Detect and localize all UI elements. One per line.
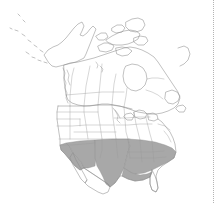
north-america-map: [0, 0, 220, 203]
panel-divider: [213, 0, 214, 203]
distribution-map-figure: North America species distribution map: [0, 0, 220, 203]
